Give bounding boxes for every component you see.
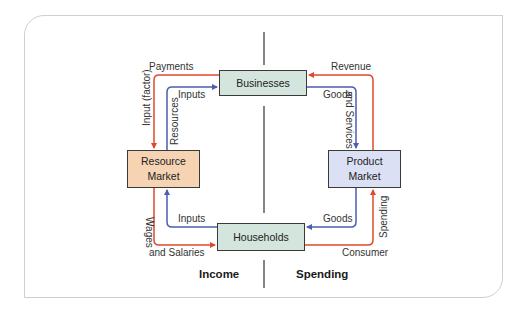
section-income: Income	[199, 268, 239, 280]
node-businesses-label: Businesses	[236, 76, 290, 91]
node-businesses: Businesses	[219, 70, 307, 96]
arrow-payments	[154, 75, 219, 148]
node-product-market-label-2: Market	[348, 169, 380, 184]
label-consumer: Consumer	[342, 247, 388, 259]
flow-arrows	[0, 0, 505, 314]
label-and-services: and Services	[343, 91, 355, 149]
label-inputs-bottom: Inputs	[178, 213, 205, 225]
section-spending: Spending	[296, 268, 348, 280]
node-resource-market: Resource Market	[127, 150, 200, 188]
label-input-factor: Input (factor)	[141, 69, 153, 126]
label-inputs-top: Inputs	[178, 89, 205, 101]
node-households-label: Households	[233, 230, 288, 245]
node-households: Households	[217, 223, 305, 251]
label-wages: Wages	[143, 217, 155, 248]
label-revenue: Revenue	[331, 61, 371, 73]
node-resource-market-label-2: Market	[147, 169, 179, 184]
node-resource-market-label-1: Resource	[141, 154, 186, 169]
label-spending-vertical: Spending	[378, 196, 390, 238]
node-product-market-label-1: Product	[346, 154, 382, 169]
node-product-market: Product Market	[328, 150, 401, 188]
label-and-salaries: and Salaries	[149, 247, 205, 259]
label-resources: Resources	[169, 97, 181, 145]
label-payments: Payments	[149, 61, 193, 73]
label-goods-bottom: Goods	[323, 213, 352, 225]
